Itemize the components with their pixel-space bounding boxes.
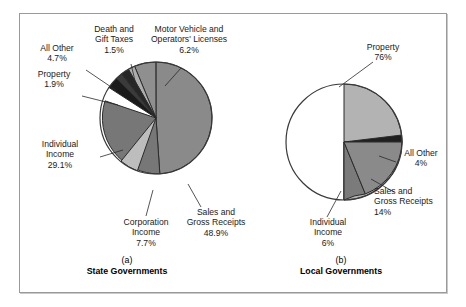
label-individual-income-state: Individual Income 29.1% [24, 139, 96, 170]
leader-individual-income [100, 150, 123, 157]
leader-motor-vehicle [165, 68, 181, 86]
label-property-state: Property 1.9% [26, 69, 82, 90]
label-death-gift-taxes: Death and Gift Taxes 1.5% [82, 24, 146, 55]
leader-property [82, 96, 118, 105]
leader-sales-gross [188, 184, 201, 207]
label-property-local: Property 76% [346, 42, 420, 63]
panel-state-governments: Death and Gift Taxes 1.5% Motor Vehicle … [20, 14, 234, 292]
label-motor-vehicle-licenses: Motor Vehicle and Operators' Licenses 6.… [146, 24, 232, 55]
leader-all-other [86, 70, 117, 91]
label-sales-gross-receipts-local: Sales and Gross Receipts 14% [374, 186, 448, 217]
caption-state-governments: (a) State Governments [20, 255, 234, 277]
leader-property-local [339, 62, 373, 87]
label-all-other-state: All Other 4.7% [28, 43, 86, 64]
leader-death-gift [131, 64, 136, 85]
leader-individual-income-local [327, 191, 341, 217]
panel-local-governments: Property 76% All Other 4% Sales and Gros… [234, 14, 448, 292]
figure-frame: Death and Gift Taxes 1.5% Motor Vehicle … [19, 13, 447, 293]
label-all-other-local: All Other 4% [394, 148, 448, 169]
label-individual-income-local: Individual Income 6% [290, 217, 366, 248]
caption-local-governments: (b) Local Governments [234, 255, 448, 277]
leader-corporation-income [146, 190, 153, 216]
